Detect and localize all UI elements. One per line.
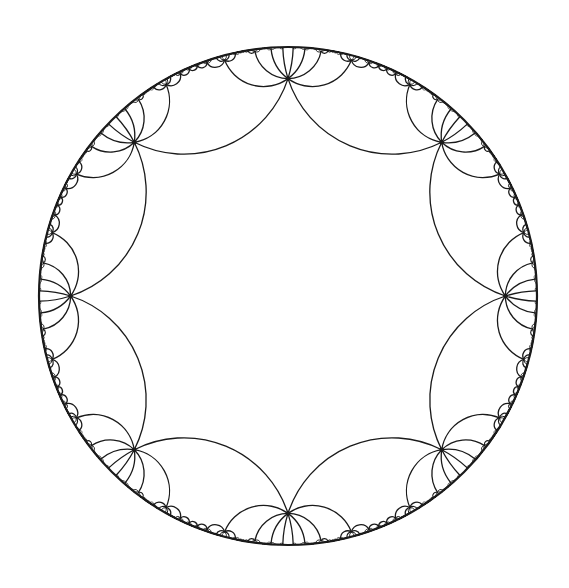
geodesic-edge <box>41 279 71 296</box>
vertex-dot <box>440 140 444 144</box>
geodesic-edge <box>497 296 523 359</box>
geodesic-edge <box>134 99 144 142</box>
vertex-dot <box>521 215 522 216</box>
vertex-dot <box>165 507 166 508</box>
geodesic-edge <box>134 450 144 493</box>
geodesic-edge <box>40 296 71 301</box>
vertex-dot <box>132 448 136 452</box>
vertex-dot <box>503 294 507 298</box>
vertex-dot <box>510 188 511 189</box>
geodesic-edge <box>505 296 536 301</box>
vertex-dot <box>437 492 438 493</box>
vertex-dot <box>409 507 410 508</box>
vertex-dot <box>43 262 44 263</box>
vertex-dot <box>65 403 66 404</box>
geodesic-edge <box>52 296 78 359</box>
geodesic-edge <box>225 60 288 86</box>
geodesic-edge <box>505 279 535 296</box>
geodesic-edge <box>271 513 288 543</box>
geodesic-edge <box>407 84 442 142</box>
vertex-dot <box>523 232 524 233</box>
vertex-dot <box>91 146 92 147</box>
geodesic-edge <box>442 142 485 152</box>
geodesic-edge <box>288 513 305 543</box>
geodesic-edge <box>283 48 288 79</box>
vertex-dot <box>43 329 44 330</box>
geodesic-edge <box>283 513 288 544</box>
vertex-dot <box>484 146 485 147</box>
vertex-dot <box>224 60 225 61</box>
vertex-dot <box>180 73 181 74</box>
vertex-dot <box>224 531 225 532</box>
vertex-dot <box>532 329 533 330</box>
geodesic-edge <box>432 450 442 493</box>
geodesic-edge <box>288 48 293 79</box>
vertex-dot <box>65 188 66 189</box>
vertex-dot <box>76 417 77 418</box>
vertex-dot <box>409 84 410 85</box>
vertex-dot <box>54 215 55 216</box>
vertex-dot <box>395 518 396 519</box>
vertex-dot <box>91 445 92 446</box>
figure-canvas: Hyperbolic tiling in the Poincaré disk <box>0 0 569 588</box>
vertex-dot <box>532 262 533 263</box>
vertex-dot <box>165 84 166 85</box>
vertex-dot <box>521 376 522 377</box>
geodesic-edge <box>134 84 169 142</box>
geodesic-edge <box>442 440 485 450</box>
vertex-dot <box>254 540 255 541</box>
geodesic-edge <box>288 505 351 531</box>
geodesic-edge <box>52 233 78 296</box>
geodesic-edge <box>76 415 134 450</box>
vertex-dot <box>510 403 511 404</box>
geodesic-edge <box>76 142 134 177</box>
geodesic-edge <box>288 513 293 544</box>
vertex-dot <box>368 529 369 530</box>
geodesic-edge <box>505 291 536 296</box>
vertex-dot <box>499 173 500 174</box>
vertex-dot <box>138 99 139 100</box>
geodesic-edge <box>91 440 134 450</box>
geodesic-edge <box>134 450 169 508</box>
geodesic-edge <box>432 99 442 142</box>
vertex-dot <box>54 376 55 377</box>
geodesic-edge <box>442 415 500 450</box>
vertex-dot <box>440 448 444 452</box>
vertex-dot <box>254 51 255 52</box>
geodesic-edge <box>288 49 305 79</box>
disk-boundary <box>39 47 537 545</box>
vertex-dot <box>321 51 322 52</box>
vertex-dot <box>395 73 396 74</box>
vertex-dot <box>437 99 438 100</box>
vertex-dot <box>68 294 72 298</box>
vertex-dots <box>39 47 537 545</box>
poincare-disk-tiling <box>0 0 569 588</box>
geodesic-edge <box>91 142 134 152</box>
vertex-dot <box>207 529 208 530</box>
vertex-dot <box>286 76 290 80</box>
geodesic-edges <box>39 47 536 544</box>
vertex-dot <box>76 173 77 174</box>
vertex-dot <box>321 540 322 541</box>
geodesic-edge <box>407 450 442 508</box>
vertex-dot <box>286 511 290 515</box>
geodesic-edge <box>41 296 71 313</box>
vertex-dot <box>351 60 352 61</box>
geodesic-edge <box>271 49 288 79</box>
geodesic-edge <box>442 142 500 177</box>
geodesic-edge <box>288 60 351 86</box>
vertex-dot <box>207 62 208 63</box>
geodesic-edge <box>505 296 535 313</box>
vertex-dot <box>138 492 139 493</box>
vertex-dot <box>499 417 500 418</box>
vertex-dot <box>368 62 369 63</box>
vertex-dot <box>180 518 181 519</box>
vertex-dot <box>523 359 524 360</box>
geodesic-edge <box>497 233 523 296</box>
geodesic-edge <box>40 291 71 296</box>
vertex-dot <box>52 359 53 360</box>
vertex-dot <box>52 232 53 233</box>
vertex-dot <box>132 140 136 144</box>
vertex-dot <box>484 445 485 446</box>
geodesic-edge <box>225 505 288 531</box>
